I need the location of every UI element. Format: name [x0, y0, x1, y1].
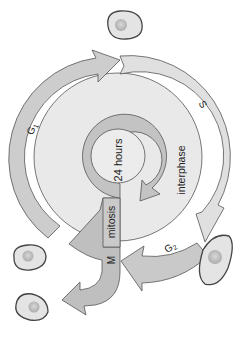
cell-lower-left-2 — [16, 294, 48, 321]
center-label-24-hours: 24 hours — [112, 138, 124, 181]
cell-cycle-diagram: 24 hours G1 S interphase G2 mitosis M — [0, 0, 243, 337]
cell-top — [108, 11, 142, 39]
interphase-label: interphase — [175, 145, 187, 194]
cell-right — [199, 235, 232, 284]
m-label: M — [106, 256, 117, 264]
cell-lower-left-1 — [14, 245, 46, 270]
s-label: S — [197, 98, 210, 110]
mitosis-label: mitosis — [105, 206, 117, 239]
